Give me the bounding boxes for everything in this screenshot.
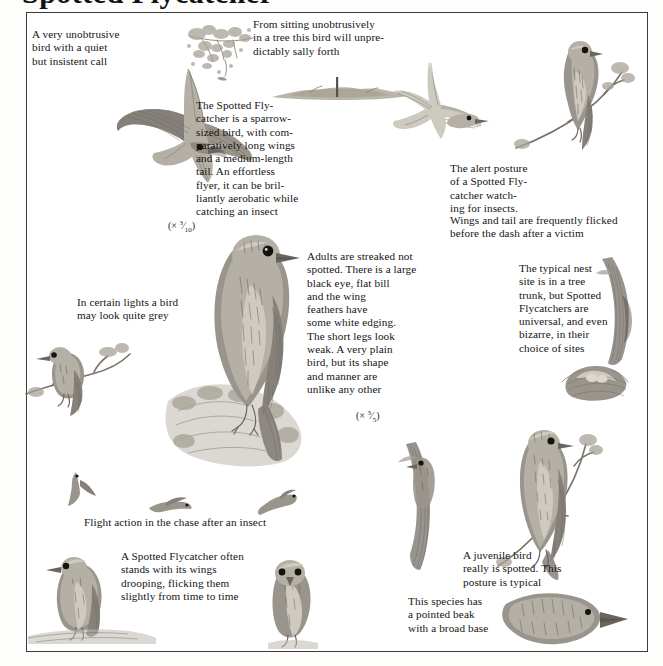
juvenile-on-trunk	[396, 440, 456, 575]
scale-main-prefix: (×	[356, 410, 367, 421]
caption-juvenile-spotted: A juvenile bird really is spotted. This …	[463, 549, 593, 589]
grey-bird-branch	[22, 330, 137, 420]
scale-main: (× 3⁄5)	[356, 409, 380, 424]
caption-sally-forth: From sitting unobtrusively in a tree thi…	[253, 18, 433, 58]
scale-flight-numerator: 3	[179, 219, 183, 227]
caption-wings-flicked: Wings and tail are frequently flicked be…	[450, 214, 660, 241]
flying-bird-side	[385, 55, 495, 155]
perched-bird-upright	[508, 28, 643, 163]
caption-unobtrusive-call: A very unobtrusive bird with a quiet but…	[32, 28, 182, 68]
scale-flight: (× 3⁄10)	[168, 219, 195, 234]
head-detail-beak	[500, 588, 630, 650]
illustration-page: Spotted Flycatcher	[0, 0, 663, 666]
caption-alert-posture: The alert posture of a Spotted Fly- catc…	[450, 162, 570, 215]
caption-flight-action: Flight action in the chase after an inse…	[84, 516, 314, 529]
scale-main-suffix: )	[376, 410, 379, 421]
scale-flight-denominator: 10	[185, 226, 192, 234]
caption-pointed-beak: This species has a pointed beak with a b…	[408, 595, 518, 635]
caption-wings-drooping: A Spotted Flycatcher often stands with i…	[121, 550, 291, 603]
caption-sparrow-sized: The Spotted Fly- catcher is a sparrow- s…	[196, 99, 316, 219]
scale-flight-prefix: (×	[168, 220, 179, 231]
scale-main-numerator: 3	[367, 409, 371, 417]
flight-silhouette-1	[58, 470, 100, 508]
scale-flight-suffix: )	[192, 220, 195, 231]
page-heading-cropped: Spotted Flycatcher	[0, 0, 663, 11]
nest-cup	[560, 352, 632, 406]
caption-typical-nest: The typical nest site is in a tree trunk…	[519, 262, 644, 355]
page-heading-text: Spotted Flycatcher	[22, 0, 273, 10]
caption-adults-streaked: Adults are streaked not spotted. There i…	[307, 250, 427, 396]
caption-certain-lights: In certain lights a bird may look quite …	[77, 296, 227, 323]
